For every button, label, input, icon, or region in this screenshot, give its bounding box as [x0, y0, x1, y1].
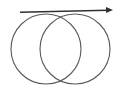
- diagram-background: [0, 0, 122, 89]
- figure-container: [0, 0, 122, 89]
- geometry-diagram: [0, 0, 122, 89]
